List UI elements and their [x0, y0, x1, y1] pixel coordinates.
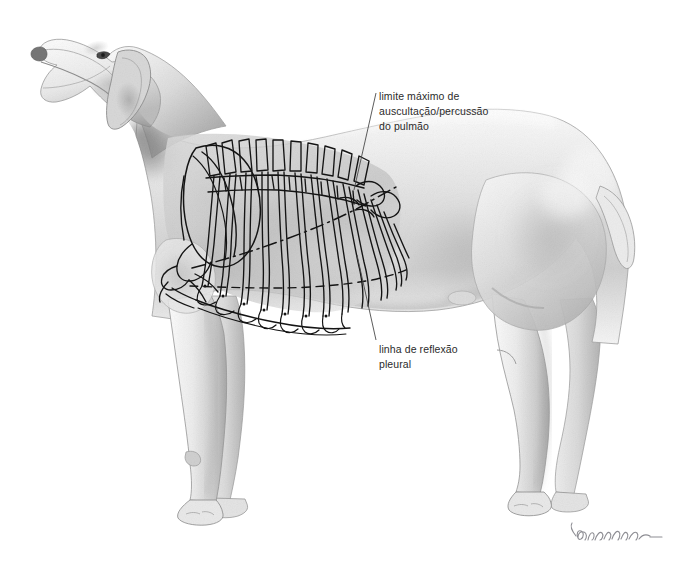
dog-thorax-illustration — [0, 0, 692, 561]
auscultation-limit-label: limite máximo de auscultação/percussão d… — [379, 89, 489, 134]
near-front-leg — [168, 294, 227, 525]
dog-body-group — [31, 38, 635, 525]
artist-signature — [571, 523, 662, 540]
pleural-reflection-label: linha de reflexão pleural — [379, 342, 458, 372]
pleural-reflection-label-line-1: linha de reflexão — [379, 342, 458, 357]
pleural-reflection-label-line-2: pleural — [379, 357, 458, 372]
auscultation-limit-label-line-1: limite máximo de — [379, 89, 489, 104]
auscultation-limit-label-line-3: do pulmão — [379, 119, 489, 134]
auscultation-limit-label-line-2: auscultação/percussão — [379, 104, 489, 119]
anatomy-figure: limite máximo de auscultação/percussão d… — [0, 0, 692, 561]
far-hind-leg — [551, 298, 600, 512]
front-paw — [178, 500, 223, 525]
